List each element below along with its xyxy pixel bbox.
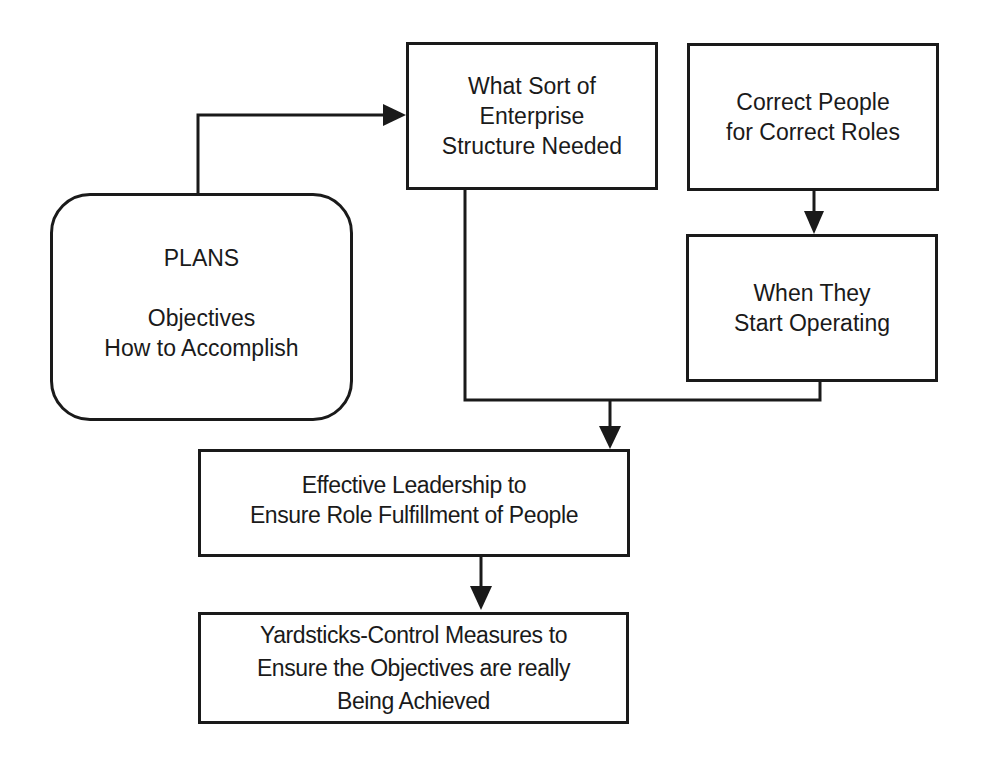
node-plans-line-2: How to Accomplish — [104, 333, 298, 363]
edge-people-to-operating — [804, 190, 824, 234]
node-operating-line-1: When They — [753, 278, 870, 308]
node-plans-line-1: Objectives — [148, 303, 255, 333]
node-plans-title: PLANS — [164, 243, 239, 273]
node-yardsticks-line-3: Being Achieved — [337, 685, 490, 718]
node-people-line-1: Correct People — [736, 87, 889, 117]
edge-plans-to-structure — [198, 104, 406, 193]
node-people: Correct People for Correct Roles — [687, 43, 939, 191]
edge-leadership-to-yardsticks — [470, 556, 492, 610]
arrowhead-icon — [599, 426, 621, 449]
arrowhead-icon — [383, 104, 406, 126]
arrowhead-icon — [804, 211, 824, 234]
node-structure: What Sort of Enterprise Structure Needed — [406, 42, 658, 190]
node-operating: When They Start Operating — [686, 234, 938, 382]
node-yardsticks-line-2: Ensure the Objectives are really — [257, 652, 570, 685]
node-yardsticks-line-1: Yardsticks-Control Measures to — [260, 619, 567, 652]
node-operating-line-2: Start Operating — [734, 308, 890, 338]
arrowhead-icon — [470, 586, 492, 610]
node-leadership-line-1: Effective Leadership to — [302, 470, 526, 500]
node-yardsticks: Yardsticks-Control Measures to Ensure th… — [198, 612, 629, 724]
node-structure-line-2: Enterprise — [480, 101, 585, 131]
node-leadership-line-2: Ensure Role Fulfillment of People — [250, 500, 578, 530]
node-people-line-2: for Correct Roles — [726, 117, 900, 147]
node-structure-line-3: Structure Needed — [442, 131, 622, 161]
node-leadership: Effective Leadership to Ensure Role Fulf… — [198, 449, 630, 557]
node-structure-line-1: What Sort of — [468, 71, 596, 101]
node-plans: PLANS Objectives How to Accomplish — [50, 193, 353, 421]
